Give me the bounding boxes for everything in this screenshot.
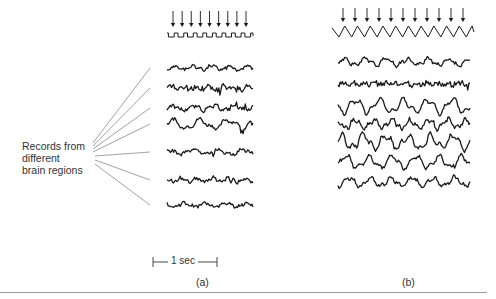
arrow-down-icon bbox=[244, 23, 248, 27]
region-label: Records from different brain regions bbox=[22, 140, 102, 176]
arrow-down-icon bbox=[180, 23, 184, 27]
arrow-down-icon bbox=[425, 18, 429, 22]
arrow-down-icon bbox=[341, 18, 345, 22]
eeg-traces-a bbox=[167, 65, 253, 209]
eeg-traces-b bbox=[338, 57, 470, 189]
eeg-trace bbox=[167, 176, 253, 184]
arrow-down-icon bbox=[365, 18, 369, 22]
arrow-down-icon bbox=[353, 18, 357, 22]
arrow-down-icon bbox=[437, 18, 441, 22]
fan-line bbox=[93, 68, 150, 143]
eeg-trace bbox=[338, 117, 470, 131]
eeg-trace bbox=[338, 57, 470, 68]
arrow-down-icon bbox=[198, 23, 202, 27]
square-wave-stimulus-a bbox=[167, 33, 253, 37]
eeg-trace bbox=[167, 65, 253, 72]
eeg-trace bbox=[167, 84, 253, 95]
eeg-trace bbox=[338, 132, 470, 153]
eeg-trace bbox=[167, 201, 253, 208]
arrow-down-icon bbox=[189, 23, 193, 27]
region-label-line-2: different bbox=[22, 152, 102, 164]
arrow-down-icon bbox=[449, 18, 453, 22]
arrow-down-icon bbox=[207, 23, 211, 27]
arrow-down-icon bbox=[461, 18, 465, 22]
region-label-line-3: brain regions bbox=[22, 164, 102, 176]
eeg-trace bbox=[338, 175, 470, 189]
eeg-trace bbox=[338, 153, 470, 170]
arrow-down-icon bbox=[413, 18, 417, 22]
fan-line bbox=[93, 88, 150, 146]
arrow-down-icon bbox=[171, 23, 175, 27]
eeg-trace bbox=[167, 102, 253, 113]
fan-line bbox=[95, 152, 150, 156]
fan-lines bbox=[93, 68, 150, 205]
stimulus-arrows-a bbox=[171, 11, 248, 27]
region-label-line-1: Records from bbox=[22, 140, 102, 152]
panel-label-a: (a) bbox=[196, 276, 209, 288]
zigzag-stimulus-b bbox=[332, 26, 474, 37]
eeg-trace bbox=[167, 149, 253, 157]
eeg-trace bbox=[338, 97, 470, 116]
arrow-down-icon bbox=[226, 23, 230, 27]
arrow-down-icon bbox=[389, 18, 393, 22]
scale-bar-label: 1 sec bbox=[168, 255, 198, 266]
arrow-down-icon bbox=[235, 23, 239, 27]
bottom-rule bbox=[0, 292, 487, 293]
arrow-down-icon bbox=[216, 23, 220, 27]
arrow-down-icon bbox=[377, 18, 381, 22]
arrow-down-icon bbox=[401, 18, 405, 22]
eeg-trace bbox=[167, 118, 253, 134]
panel-label-b: (b) bbox=[402, 276, 415, 288]
stimulus-arrows-b bbox=[341, 8, 465, 22]
eeg-trace bbox=[338, 81, 470, 91]
